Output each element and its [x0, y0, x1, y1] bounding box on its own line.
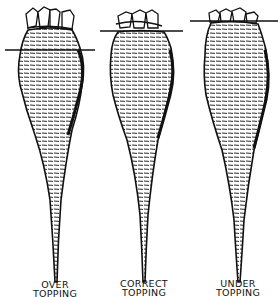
label-line-2: TOPPING — [193, 288, 278, 297]
label-under-topping: UNDER TOPPING — [193, 279, 278, 297]
beet-over-topping — [5, 7, 95, 282]
label-over-topping: OVER TOPPING — [10, 280, 100, 297]
beet-body — [110, 31, 172, 283]
beet-topping-illustration: OVER TOPPING CORRECT TOPPING UNDER TOPPI… — [0, 0, 278, 297]
label-line-2: TOPPING — [99, 288, 189, 297]
beet-body — [19, 28, 84, 282]
label-correct-topping: CORRECT TOPPING — [99, 279, 189, 297]
beet-correct-topping — [100, 10, 183, 282]
beets-drawing — [0, 0, 278, 297]
beet-body — [204, 22, 268, 282]
label-line-2: TOPPING — [10, 289, 100, 297]
crown-stubs — [116, 10, 162, 28]
beet-under-topping — [190, 8, 278, 282]
